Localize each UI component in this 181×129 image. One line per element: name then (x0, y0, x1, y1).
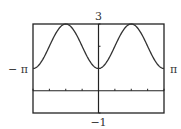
x-max-label: π (170, 63, 177, 76)
chart: 3 −1 − π π (0, 0, 181, 129)
y-max-label: 3 (95, 10, 102, 23)
y-min-label: −1 (90, 116, 106, 129)
x-min-label: − π (8, 63, 28, 76)
